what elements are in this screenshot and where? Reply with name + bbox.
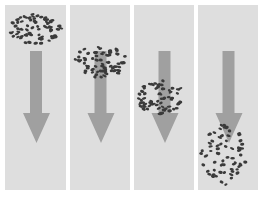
- panel-3: [134, 5, 194, 190]
- panel-2-graphic: [70, 5, 130, 190]
- panel-3-graphic: [134, 5, 194, 190]
- panel-1: [5, 5, 66, 190]
- panel-1-graphic: [5, 5, 66, 190]
- particle-cloud: [8, 13, 63, 45]
- panel-4-graphic: [198, 5, 258, 190]
- panel-4: [198, 5, 258, 190]
- down-arrow-icon: [88, 51, 115, 143]
- panel-2: [70, 5, 130, 190]
- particle-cloud: [199, 123, 247, 186]
- down-arrow-icon: [23, 51, 50, 143]
